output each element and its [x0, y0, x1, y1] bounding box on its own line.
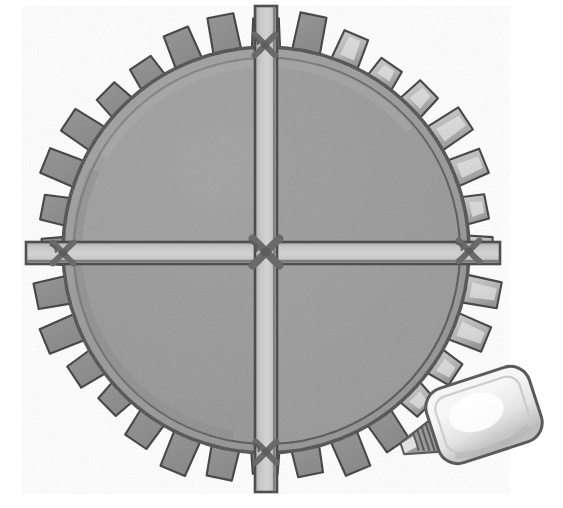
- lashing-knot-core: [261, 248, 271, 257]
- wheel-and-bottle-illustration: [0, 0, 563, 508]
- artwork-root: [26, 6, 547, 492]
- illustration-canvas: Toothed wheel with cross braces and a sq…: [0, 0, 563, 508]
- lashing-knot-core: [261, 42, 269, 49]
- lashing-knot-core: [465, 248, 473, 255]
- lashing-knot-core: [59, 250, 67, 257]
- lashing-knot-core: [262, 449, 270, 456]
